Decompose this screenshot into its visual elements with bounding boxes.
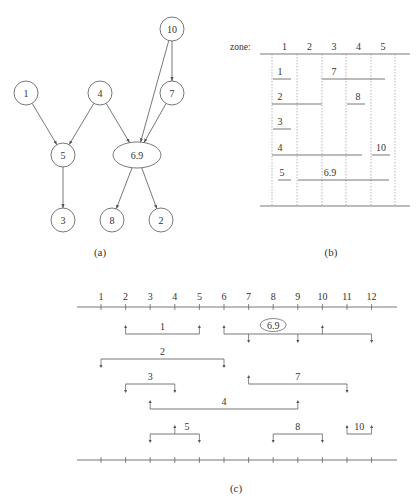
zone-entry-10: 10: [372, 142, 390, 155]
interval-label: 8: [295, 421, 300, 432]
zone-header-3: 3: [332, 41, 337, 52]
graph-node-label: 6.9: [131, 150, 144, 161]
panel-c-interval-diagram: 12345678910111216.923745810: [77, 291, 397, 463]
zone-entry-label: 7: [332, 66, 337, 77]
down-arrow-icon: [173, 390, 176, 393]
zone-header-4: 4: [356, 41, 361, 52]
zone-entry-label: 6.9: [324, 167, 337, 178]
zone-entry-label: 2: [278, 91, 283, 102]
tick-label-7: 7: [246, 291, 251, 302]
zone-entry-7: 7: [322, 66, 385, 79]
tick-label-8: 8: [271, 291, 276, 302]
interval-label: 1: [160, 321, 165, 332]
graph-node-label: 3: [61, 215, 66, 226]
zone-entry-8: 8: [347, 91, 365, 104]
down-arrow-icon: [149, 440, 152, 443]
interval-7: 7: [247, 371, 348, 393]
panel-a-caption: (a): [94, 246, 107, 259]
zone-entry-6.9: 6.9: [298, 167, 389, 180]
interval-10: 10: [346, 421, 374, 434]
graph-node-label: 8: [110, 215, 115, 226]
down-arrow-icon: [198, 440, 201, 443]
graph-node-3: 3: [51, 208, 75, 232]
graph-node-label: 1: [24, 88, 29, 99]
zone-entry-label: 5: [280, 167, 285, 178]
graph-node-4: 4: [88, 81, 112, 105]
interval-1: 1: [124, 321, 201, 334]
interval-4: 4: [149, 396, 300, 409]
down-arrow-icon: [223, 365, 226, 368]
panel-b-zone-table: zone:123451728341056.9: [230, 41, 410, 206]
graph-node-label: 10: [167, 24, 177, 35]
graph-node-1: 1: [14, 81, 38, 105]
zone-entry-1: 1: [273, 66, 291, 79]
edge-1-to-5: [32, 103, 57, 144]
interval-2: 2: [100, 346, 226, 368]
edge-4-to-5: [69, 103, 94, 144]
panel-a-dependency-graph: 1014756.9382: [14, 17, 184, 232]
tick-label-1: 1: [99, 291, 104, 302]
tick-label-5: 5: [197, 291, 202, 302]
zone-label: zone:: [230, 42, 251, 52]
graph-node-label: 5: [61, 150, 66, 161]
interval-label: 7: [295, 371, 300, 382]
tick-label-10: 10: [317, 291, 327, 302]
tick-label-12: 12: [367, 291, 377, 302]
down-arrow-icon: [124, 390, 127, 393]
zone-header-1: 1: [282, 41, 287, 52]
interval-5: 5: [149, 421, 201, 443]
zone-entry-3: 3: [273, 116, 291, 129]
panel-b-caption: (b): [325, 246, 338, 259]
tick-label-2: 2: [123, 291, 128, 302]
edge-6.9-to-2: [142, 168, 157, 209]
graph-node-label: 7: [170, 88, 175, 99]
graph-node-label: 4: [98, 88, 103, 99]
edge-6.9-to-8: [116, 168, 132, 209]
zone-entry-label: 4: [278, 142, 283, 153]
zone-entry-5: 5: [278, 167, 291, 180]
up-arrow-icon: [296, 400, 299, 403]
zone-header-2: 2: [307, 41, 312, 52]
interval-label: 5: [185, 421, 190, 432]
up-arrow-icon: [173, 425, 176, 428]
zone-entry-4: 4: [272, 142, 362, 155]
up-arrow-icon: [321, 325, 324, 328]
graph-node-6.9: 6.9: [113, 142, 161, 168]
graph-node-label: 2: [159, 215, 164, 226]
tick-label-9: 9: [295, 291, 300, 302]
zone-entry-label: 10: [376, 142, 386, 153]
down-arrow-icon: [296, 340, 299, 343]
up-arrow-icon: [346, 425, 349, 428]
edge-4-to-6.9: [106, 103, 129, 142]
down-arrow-icon: [247, 340, 250, 343]
interval-label: 6.9: [267, 320, 280, 331]
up-arrow-icon: [223, 325, 226, 328]
interval-6.9: 6.9: [223, 319, 374, 344]
graph-node-10: 10: [160, 17, 184, 41]
graph-node-2: 2: [149, 208, 173, 232]
interval-label: 2: [160, 346, 165, 357]
down-arrow-icon: [346, 390, 349, 393]
zone-entry-label: 1: [278, 66, 283, 77]
up-arrow-icon: [124, 325, 127, 328]
interval-label: 4: [222, 396, 227, 407]
tick-label-11: 11: [342, 291, 352, 302]
tick-label-6: 6: [222, 291, 227, 302]
up-arrow-icon: [370, 425, 373, 428]
interval-label: 3: [148, 371, 153, 382]
figure-canvas: 1014756.9382 (a) zone:123451728341056.9 …: [0, 0, 416, 503]
interval-3: 3: [124, 371, 176, 393]
interval-8: 8: [272, 421, 324, 443]
down-arrow-icon: [370, 340, 373, 343]
down-arrow-icon: [100, 365, 103, 368]
tick-label-3: 3: [148, 291, 153, 302]
zone-entry-label: 8: [356, 91, 361, 102]
edge-7-to-6.9: [144, 103, 166, 142]
up-arrow-icon: [247, 375, 250, 378]
graph-node-5: 5: [51, 143, 75, 167]
zone-header-5: 5: [381, 41, 386, 52]
zone-entry-label: 3: [278, 116, 283, 127]
graph-node-7: 7: [160, 81, 184, 105]
up-arrow-icon: [149, 400, 152, 403]
down-arrow-icon: [272, 440, 275, 443]
